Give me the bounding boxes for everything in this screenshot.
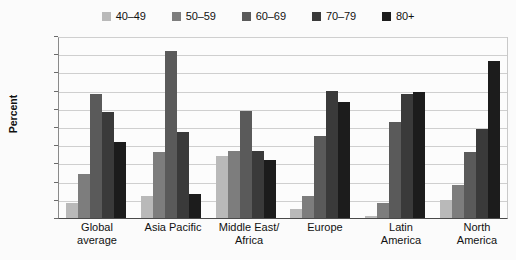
legend-item[interactable]: 50–59 <box>172 10 216 22</box>
legend-label: 70–79 <box>326 10 356 22</box>
bar[interactable] <box>240 111 252 218</box>
bar[interactable] <box>153 152 165 218</box>
category-label-line: Middle East/ <box>211 221 287 234</box>
x-axis-category-label: Europe <box>287 221 363 234</box>
x-axis-category-label: Middle East/Africa <box>211 221 287 246</box>
y-axis-tick-mark <box>54 145 58 146</box>
category-label-line: Global <box>59 221 135 234</box>
legend-label: 80+ <box>396 10 414 22</box>
bar[interactable] <box>290 209 302 218</box>
bar[interactable] <box>326 91 338 218</box>
bar-group <box>440 37 500 218</box>
bar[interactable] <box>302 196 314 218</box>
bar[interactable] <box>401 94 413 218</box>
legend-item[interactable]: 40–49 <box>102 10 146 22</box>
legend-item[interactable]: 80+ <box>382 10 414 22</box>
bar[interactable] <box>314 136 326 218</box>
legend-item[interactable]: 60–69 <box>242 10 286 22</box>
bar[interactable] <box>114 142 126 218</box>
bar[interactable] <box>413 92 425 218</box>
category-label-line: America <box>439 234 515 247</box>
category-label-line: Africa <box>211 234 287 247</box>
x-axis-category-label: Asia Pacific <box>135 221 211 234</box>
bar[interactable] <box>165 51 177 218</box>
legend-label: 60–69 <box>256 10 286 22</box>
y-axis-title: Percent <box>7 79 19 149</box>
bar[interactable] <box>216 156 228 218</box>
y-axis-tick-mark <box>54 218 58 219</box>
category-label-line: North <box>439 221 515 234</box>
x-axis-category-labels: GlobalaverageAsia PacificMiddle East/Afr… <box>59 221 509 259</box>
bar-group <box>216 37 276 218</box>
bar[interactable] <box>464 152 476 218</box>
y-axis-tick-mark <box>54 200 58 201</box>
bar[interactable] <box>228 151 240 218</box>
legend-swatch-icon <box>102 12 111 21</box>
bar[interactable] <box>488 61 500 218</box>
y-axis-tick-mark <box>54 72 58 73</box>
legend-swatch-icon <box>242 12 251 21</box>
plot-wrapper: 50%454035302520151050 <box>58 37 508 219</box>
category-label-line: Asia Pacific <box>135 221 211 234</box>
legend-label: 40–49 <box>116 10 146 22</box>
bar[interactable] <box>78 174 90 218</box>
y-axis-tick-mark <box>54 91 58 92</box>
bar-group <box>141 37 201 218</box>
bar[interactable] <box>365 216 377 218</box>
bar-group <box>290 37 350 218</box>
bar[interactable] <box>440 200 452 218</box>
legend-swatch-icon <box>312 12 321 21</box>
category-label-line: America <box>363 234 439 247</box>
bar[interactable] <box>377 203 389 218</box>
bar[interactable] <box>476 129 488 218</box>
y-axis-tick-mark <box>54 54 58 55</box>
y-axis-tick-mark <box>54 109 58 110</box>
y-axis-tick-mark <box>54 36 58 37</box>
bar[interactable] <box>252 151 264 218</box>
bar[interactable] <box>102 112 114 218</box>
x-axis-category-label: Globalaverage <box>59 221 135 246</box>
y-axis-tick-mark <box>54 127 58 128</box>
bar[interactable] <box>90 94 102 218</box>
bar-group <box>66 37 126 218</box>
bar[interactable] <box>141 196 153 218</box>
chart-legend: 40–4950–5960–6970–7980+ <box>0 6 516 26</box>
legend-swatch-icon <box>382 12 391 21</box>
bar[interactable] <box>264 160 276 218</box>
category-label-line: Latin <box>363 221 439 234</box>
bar-groups <box>59 37 507 218</box>
legend-item[interactable]: 70–79 <box>312 10 356 22</box>
x-axis-category-label: LatinAmerica <box>363 221 439 246</box>
bar[interactable] <box>177 132 189 218</box>
y-axis-tick-mark <box>54 163 58 164</box>
legend-swatch-icon <box>172 12 181 21</box>
bar-group <box>365 37 425 218</box>
bar[interactable] <box>66 203 78 218</box>
category-label-line: Europe <box>287 221 363 234</box>
bar[interactable] <box>338 102 350 218</box>
bar[interactable] <box>189 194 201 218</box>
y-axis-tick-mark <box>54 182 58 183</box>
bar[interactable] <box>452 185 464 218</box>
legend-label: 50–59 <box>186 10 216 22</box>
bar-chart: 40–4950–5960–6970–7980+ Percent 50%45403… <box>0 0 516 260</box>
category-label-line: average <box>59 234 135 247</box>
x-axis-category-label: NorthAmerica <box>439 221 515 246</box>
bar[interactable] <box>389 122 401 218</box>
